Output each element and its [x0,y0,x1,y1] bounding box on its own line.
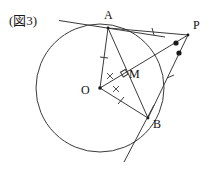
point-label-A: A [104,9,113,21]
point-label-B: B [153,118,161,130]
point-dot-A [107,27,110,30]
cross-angle-MOB-icon [113,86,119,92]
cross-angle-AOM-icon [107,73,113,79]
point-label-M: M [129,68,140,80]
chord-AB [108,28,148,118]
angle-dot-APO-icon [173,40,178,45]
point-dot-P [187,34,190,37]
point-dot-B [147,117,150,120]
tangent-line-through-B [124,105,154,162]
geometry-figure: (図3) A P O M B [0,0,212,169]
point-dot-O [98,86,102,90]
figure-caption: (図3) [9,10,37,29]
angle-dot-OPB-icon [176,50,181,55]
point-label-P: P [193,19,200,31]
tick-on-OA-icon [100,57,108,58]
point-label-O: O [81,84,90,96]
